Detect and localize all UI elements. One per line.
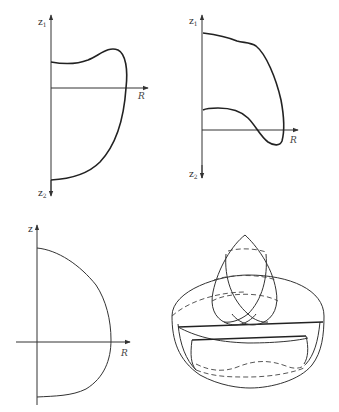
- lens-left-outer: [212, 235, 256, 325]
- label-z2: z2: [38, 188, 47, 199]
- label-r: R: [289, 135, 297, 145]
- cut-right-drop: [304, 336, 308, 364]
- label-z1: z1: [38, 17, 47, 28]
- label-r: R: [120, 348, 128, 358]
- curve: [203, 33, 284, 145]
- diagram-canvas: z1 z2 R z1 z2 R z R: [0, 0, 339, 412]
- curve: [37, 248, 111, 397]
- hidden-arc-3: [212, 294, 278, 301]
- label-z1: z1: [189, 16, 198, 27]
- hidden-wave-top: [196, 362, 306, 371]
- bowl-right-edge: [306, 322, 320, 364]
- label-r: R: [137, 91, 145, 101]
- panel-bottom-right-solid: [172, 235, 324, 388]
- hidden-arc-1: [228, 249, 266, 252]
- bowl-rim-back: [172, 275, 324, 316]
- label-z: z: [28, 224, 33, 234]
- panel-top-right: z1 z2 R: [189, 15, 298, 180]
- curve: [51, 49, 127, 180]
- lens-right-outer: [232, 235, 277, 325]
- label-z2: z2: [189, 169, 198, 180]
- panel-top-left: z1 z2 R: [38, 15, 148, 199]
- lens-left-inner: [226, 254, 268, 322]
- panel-bottom-left: z R: [16, 224, 130, 405]
